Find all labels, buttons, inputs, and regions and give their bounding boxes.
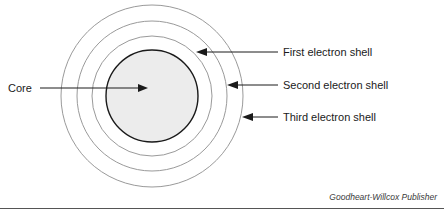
- figure-canvas: Core First electron shell Second electro…: [0, 0, 444, 214]
- first-electron-shell-arrow-head: [196, 48, 207, 56]
- third-electron-shell-label: Third electron shell: [283, 111, 376, 123]
- second-electron-shell-label: Second electron shell: [283, 79, 388, 91]
- third-electron-shell-arrow-head: [242, 113, 253, 121]
- atom-shell-diagram: Core First electron shell Second electro…: [0, 0, 444, 214]
- core-label: Core: [8, 82, 32, 94]
- core-circle: [106, 50, 198, 142]
- second-electron-shell-arrow-head: [227, 81, 238, 89]
- first-electron-shell-label: First electron shell: [283, 46, 372, 58]
- publisher-credit: Goodheart-Willcox Publisher: [329, 192, 438, 202]
